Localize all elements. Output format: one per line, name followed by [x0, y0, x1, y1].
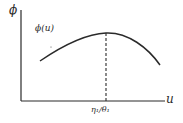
phi-curve [40, 33, 160, 65]
peak-tick-label: η₁/θ₁ [91, 106, 110, 114]
x-axis-label: u [166, 93, 174, 105]
curve-label: ϕ(u) [35, 24, 54, 33]
curve-label-pointer [51, 47, 52, 48]
y-axis-label: ϕ [9, 4, 17, 16]
